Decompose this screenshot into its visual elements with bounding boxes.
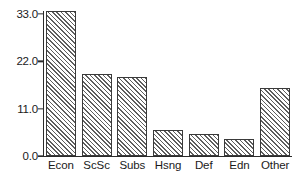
x-tick-label: Other [261,159,289,171]
y-tick-label: 0.0 [23,150,38,162]
x-tick-label: ScSc [83,159,109,171]
y-tick-label: 33.0 [16,8,38,20]
x-tick-label: Def [195,159,213,171]
y-tick-label: 22.0 [16,55,38,67]
x-tick-label: Econ [48,159,74,171]
x-tick-label: Hsng [155,159,181,171]
x-tick-label: Edn [229,159,249,171]
y-axis-tick-labels: 0.011.022.033.0 [0,0,38,179]
bar-chart: 0.011.022.033.0 EconScScSubsHsngDefEdnOt… [0,0,300,179]
x-axis-tick-labels: EconScScSubsHsngDefEdnOther [43,0,293,179]
y-tick-label: 11.0 [17,103,38,115]
x-tick-label: Subs [119,159,145,171]
